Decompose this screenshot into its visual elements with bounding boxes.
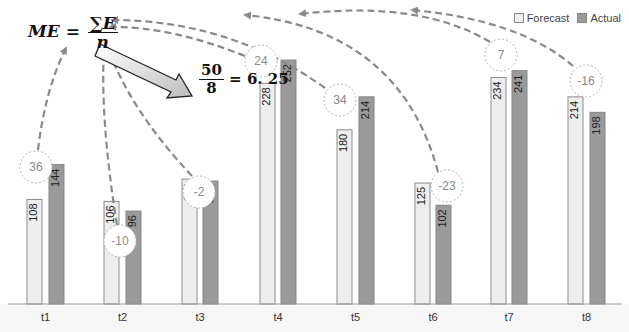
formula-lhs: ME = — [28, 21, 80, 41]
bar-forecast-t8 — [568, 97, 583, 304]
bar-actual-t8 — [590, 112, 605, 304]
chart-legend: Forecast Actual — [514, 12, 621, 24]
error-value-label: -2 — [194, 185, 205, 199]
bar-forecast-t5 — [337, 130, 352, 304]
bar-value-label: 125 — [415, 187, 427, 205]
error-arrow — [110, 27, 245, 56]
legend-label-forecast: Forecast — [527, 12, 570, 24]
bar-group: 1081441069612912722825218021412510223424… — [27, 60, 605, 304]
x-tick-label: t3 — [195, 311, 204, 323]
bar-value-label: 241 — [512, 75, 524, 93]
error-arrow — [300, 11, 490, 43]
mean-error-result: 50 8 = 6. 25 — [199, 62, 289, 97]
formula-denominator: n — [97, 33, 109, 51]
x-tick-label: t7 — [504, 311, 513, 323]
bar-value-label: 214 — [568, 101, 580, 119]
forecast-swatch-icon — [514, 13, 524, 23]
mean-error-formula: ME = ∑E n — [28, 14, 118, 51]
error-value-label: 34 — [333, 93, 347, 107]
legend-label-actual: Actual — [590, 12, 621, 24]
x-tick-label: t2 — [118, 311, 127, 323]
x-tick-label: t8 — [582, 311, 591, 323]
x-tick-label: t5 — [351, 311, 360, 323]
bar-actual-t7 — [512, 71, 527, 304]
x-tick-label: t6 — [428, 311, 437, 323]
legend-item-forecast: Forecast — [514, 12, 570, 24]
block-arrow-icon — [95, 44, 192, 98]
x-tick-label: t1 — [41, 311, 50, 323]
error-value-label: -10 — [111, 234, 129, 248]
bar-value-label: 234 — [491, 81, 503, 99]
actual-swatch-icon — [577, 13, 587, 23]
error-value-label: -23 — [438, 179, 456, 193]
bar-actual-t5 — [359, 97, 374, 304]
formula-numerator: ∑E — [88, 14, 118, 33]
error-arrow — [38, 48, 66, 150]
bar-value-label: 180 — [337, 134, 349, 152]
error-arrow — [103, 48, 117, 225]
error-value-label: 7 — [498, 48, 505, 62]
bar-value-label: 198 — [590, 116, 602, 134]
error-value-label: 36 — [29, 160, 43, 174]
legend-item-actual: Actual — [577, 12, 621, 24]
bar-forecast-t7 — [491, 77, 506, 304]
bar-value-label: 214 — [359, 101, 371, 119]
error-value-label: -16 — [577, 74, 595, 88]
x-tick-label: t4 — [273, 311, 282, 323]
bar-value-label: 96 — [126, 215, 138, 227]
result-value: = 6. 25 — [229, 70, 289, 88]
bar-value-label: 102 — [436, 209, 448, 227]
bar-forecast-t4 — [260, 83, 275, 304]
result-numerator: 50 — [199, 62, 224, 80]
bar-value-label: 108 — [27, 203, 39, 221]
result-denominator: 8 — [206, 80, 216, 97]
